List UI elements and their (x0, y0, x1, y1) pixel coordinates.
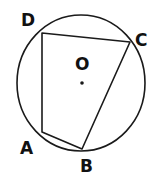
label-d: D (21, 10, 35, 30)
label-a: A (20, 138, 34, 158)
label-o: O (75, 54, 89, 74)
center-point (80, 81, 84, 85)
label-c: C (135, 30, 147, 50)
quadrilateral-abcd (42, 33, 130, 149)
label-b: B (80, 156, 93, 176)
geometry-diagram: O D C A B (0, 0, 153, 184)
